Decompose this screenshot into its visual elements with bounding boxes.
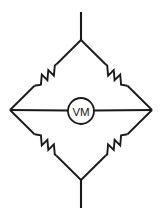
- wire-resistor-top-left-to-top: [57, 40, 82, 64]
- wire-resistor-top-right-to-right: [128, 86, 153, 110]
- circuit-diagram-canvas: VM: [0, 0, 162, 215]
- wire-resistor-bottom-right-to-right: [128, 110, 153, 134]
- wheatstone-bridge-svg: VM: [0, 0, 162, 215]
- resistor-top-right: [106, 64, 128, 86]
- wire-voltmeter-to-right: [94, 110, 152, 111]
- wire-bottom-to-resistor-bottom-right: [81, 156, 106, 180]
- resistor-top-left: [35, 64, 57, 86]
- voltmeter-label: VM: [72, 106, 89, 118]
- resistor-bottom-right: [106, 134, 128, 156]
- wire-top-to-resistor-top-right: [81, 40, 106, 64]
- wire-left-to-voltmeter: [10, 110, 68, 111]
- wire-resistor-bottom-left-to-bottom: [57, 156, 82, 180]
- wire-left-to-resistor-bottom-left: [10, 110, 35, 134]
- resistor-bottom-left: [35, 134, 57, 156]
- wire-left-to-resistor-top-left: [10, 86, 35, 110]
